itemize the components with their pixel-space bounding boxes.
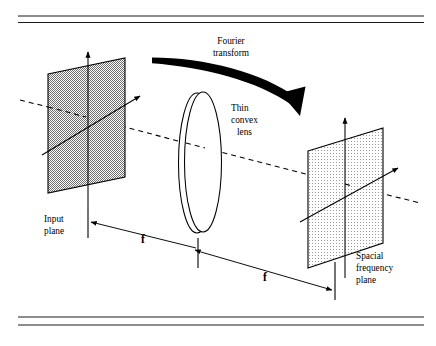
focal-length-1-label: f (141, 233, 145, 245)
optical-axis-segment-left (20, 100, 48, 107)
label-fourier-transform: Fourier transform (213, 36, 250, 58)
input-plane-label-line-1: Input (44, 214, 64, 224)
optics-diagram: Fourier transform Thin convex lens Input… (0, 0, 436, 346)
lens-front-face (185, 92, 222, 232)
bottom-border-rules (18, 317, 424, 325)
fourier-transform-arrow (152, 57, 306, 116)
lens-label-line-3: lens (237, 127, 252, 137)
output-plane-label-line-2: frequency (356, 263, 394, 273)
output-plane-label-line-3: plane (356, 275, 376, 285)
lens-label-line-1: Thin (231, 103, 249, 113)
fourier-label-line-2: transform (213, 48, 250, 58)
top-border-rules (18, 16, 424, 23)
fourier-label-line-1: Fourier (217, 36, 245, 46)
fourier-arrow-shaft (152, 57, 297, 104)
figure-root: Fourier transform Thin convex lens Input… (0, 0, 436, 346)
input-plane-label-line-2: plane (44, 226, 64, 236)
input-plane-surface (48, 58, 125, 193)
thin-convex-lens-group (179, 92, 222, 233)
label-input-plane: Input plane (44, 214, 64, 236)
focal-length-2-label: f (263, 271, 267, 283)
lens-label-line-2: convex (231, 115, 258, 125)
label-thin-convex-lens: Thin convex lens (231, 103, 258, 137)
output-plane-label-line-1: Spacial (356, 251, 384, 261)
input-plane-group (42, 52, 140, 208)
label-spacial-frequency-plane: Spacial frequency plane (356, 251, 394, 285)
